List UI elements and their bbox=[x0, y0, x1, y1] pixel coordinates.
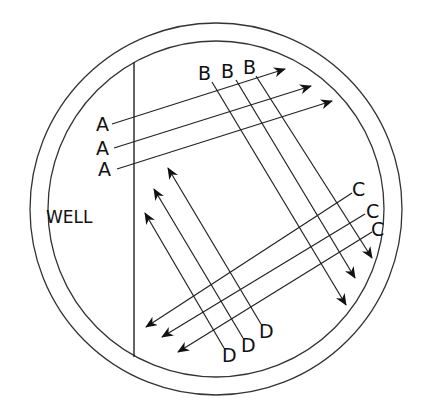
streak-label-c-3: C bbox=[371, 218, 384, 240]
streak-arrow-d-2 bbox=[154, 189, 243, 338]
streak-set-b: BBB bbox=[198, 56, 372, 305]
well-label: WELL bbox=[46, 207, 93, 227]
streak-label-d-3: D bbox=[259, 320, 274, 342]
streak-label-b-3: B bbox=[243, 56, 256, 78]
streak-label-c-1: C bbox=[352, 178, 365, 200]
streak-arrow-a-3 bbox=[117, 101, 332, 169]
streak-arrow-b-2 bbox=[236, 80, 355, 278]
streak-groups: AAABBBCCCDDD bbox=[96, 56, 384, 366]
streak-label-d-1: D bbox=[222, 344, 237, 366]
streak-arrow-d-3 bbox=[168, 168, 261, 324]
streak-label-a-2: A bbox=[96, 137, 109, 159]
streak-label-a-1: A bbox=[96, 113, 109, 135]
streak-label-a-3: A bbox=[98, 158, 111, 180]
streak-arrow-c-1 bbox=[146, 193, 352, 327]
streak-plate-diagram: WELL AAABBBCCCDDD bbox=[0, 0, 429, 416]
streak-label-d-2: D bbox=[241, 334, 256, 356]
streak-label-b-1: B bbox=[198, 62, 211, 84]
streak-arrow-d-1 bbox=[145, 213, 224, 348]
streak-arrow-c-3 bbox=[178, 232, 372, 352]
streak-label-b-2: B bbox=[221, 60, 234, 82]
streak-arrow-c-2 bbox=[162, 214, 365, 337]
streak-arrow-b-3 bbox=[256, 76, 372, 258]
